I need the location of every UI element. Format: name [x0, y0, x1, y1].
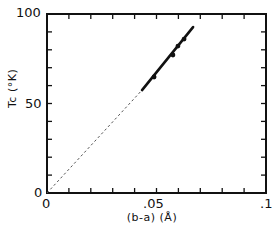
x-tick-05: .05 [143, 197, 164, 210]
plot-frame [47, 14, 266, 193]
y-axis-label: Tc (°K) [6, 69, 19, 108]
y-tick-50: 50 [25, 97, 42, 110]
x-tick-0: 0 [42, 197, 50, 210]
dashed-extrapolation-line [47, 90, 142, 193]
y-tick-100: 100 [16, 6, 41, 19]
x-axis-label: (b-a) (Å) [0, 211, 278, 224]
x-tick-1: .1 [260, 197, 272, 210]
solid-fit-line [142, 27, 193, 90]
tick-marks [47, 14, 266, 193]
